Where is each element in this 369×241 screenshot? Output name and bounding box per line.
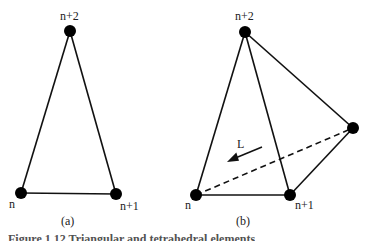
edge-n-n2	[21, 31, 70, 193]
node-b-n2	[239, 26, 251, 38]
label-a-n1: n+1	[120, 199, 139, 213]
node-b-n3	[347, 122, 359, 134]
sublabel-b: (b)	[236, 214, 250, 228]
tetrahedron-element	[196, 32, 353, 195]
element-diagram: n+2 n n+1 (a) L n+2 n n+1 (b)	[0, 0, 369, 241]
label-b-n2: n+2	[235, 9, 254, 23]
node-b-n	[190, 189, 202, 201]
arrow-label: L	[237, 137, 244, 151]
node-a-n	[15, 187, 27, 199]
edge-n1-n3	[290, 128, 353, 195]
triangle-element	[21, 31, 116, 194]
figure-caption: Figure 1.12 Triangular and tetrahedral e…	[8, 233, 255, 241]
edge-n2-n3	[245, 32, 353, 128]
edge-n1-n2	[70, 31, 116, 194]
node-a-n2	[64, 25, 76, 37]
edge-n-n1	[21, 193, 116, 194]
edge-n-n2	[196, 32, 245, 195]
sublabel-a: (a)	[61, 214, 74, 228]
label-b-n: n	[185, 198, 191, 212]
label-b-n1: n+1	[295, 198, 314, 212]
label-a-n: n	[9, 197, 15, 211]
direction-arrow-icon	[229, 147, 262, 161]
label-a-n2: n+2	[60, 9, 79, 23]
